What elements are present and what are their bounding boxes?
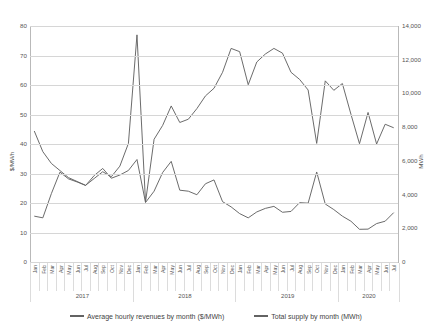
month-label: Mar	[356, 239, 362, 265]
year-group-label: 2019	[235, 290, 339, 302]
month-label: Jun	[74, 239, 80, 265]
y-axis-left-ticks: 01020304050607080	[0, 0, 27, 328]
legend-item[interactable]: Total supply by month (MWh)	[254, 313, 362, 320]
month-label: Sep	[202, 239, 208, 265]
month-label: Mar	[254, 239, 260, 265]
gridline	[30, 203, 398, 204]
y-axis-left-tick: 50	[1, 111, 27, 118]
legend-label: Average hourly revenues by month ($/MWh)	[87, 313, 224, 320]
gridline	[30, 174, 398, 175]
revenue-supply-line-chart: $/MWh MWh 01020304050607080 02,0004,0006…	[0, 0, 432, 328]
month-label: Dec	[331, 239, 337, 265]
month-label: Dec	[125, 239, 131, 265]
month-label: Jun	[382, 239, 388, 265]
month-label: Feb	[40, 239, 46, 265]
month-label: Jun	[176, 239, 182, 265]
month-label: Feb	[245, 239, 251, 265]
month-label: Sep	[305, 239, 311, 265]
y-axis-left-tick: 40	[1, 140, 27, 147]
month-label: Mar	[151, 239, 157, 265]
y-axis-right-tick: 4,000	[402, 191, 432, 198]
y-axis-right-tick: 6,000	[402, 157, 432, 164]
month-label: May	[168, 239, 174, 265]
month-label: Jul	[390, 239, 396, 265]
month-label: Oct	[211, 239, 217, 265]
month-label: Aug	[91, 239, 97, 265]
month-label: Nov	[117, 239, 123, 265]
plot-area	[30, 26, 398, 262]
year-group-label: 2017	[30, 290, 134, 302]
y-axis-left-tick: 30	[1, 170, 27, 177]
month-label: Oct	[108, 239, 114, 265]
legend-item[interactable]: Average hourly revenues by month ($/MWh)	[70, 313, 224, 320]
gridline	[30, 144, 398, 145]
month-label: Apr	[159, 239, 165, 265]
y-axis-left-tick: 20	[1, 199, 27, 206]
x-axis-month-tick: Jul	[389, 263, 400, 291]
month-label: Aug	[296, 239, 302, 265]
x-axis-year-groups: 2017201820192020	[30, 290, 398, 304]
month-label: Dec	[228, 239, 234, 265]
y-axis-left-tick: 0	[1, 258, 27, 265]
legend-line-swatch	[254, 315, 268, 316]
month-label: Aug	[194, 239, 200, 265]
x-axis-month-labels: JanFebMarAprMayJunJulAugSepOctNovDecJanF…	[30, 263, 398, 293]
gridline	[30, 56, 398, 57]
y-axis-left-tick: 70	[1, 52, 27, 59]
gridline	[30, 26, 398, 27]
y-axis-left-tick: 60	[1, 81, 27, 88]
y-axis-right-tick: 12,000	[402, 56, 432, 63]
month-label: May	[373, 239, 379, 265]
month-label: May	[65, 239, 71, 265]
gridline	[30, 115, 398, 116]
gridlines	[30, 26, 398, 262]
month-label: Feb	[142, 239, 148, 265]
y-axis-left-tick: 80	[1, 22, 27, 29]
month-label: Jul	[288, 239, 294, 265]
y-axis-right-tick: 14,000	[402, 22, 432, 29]
month-label: Jul	[185, 239, 191, 265]
y-axis-right-tick: 10,000	[402, 89, 432, 96]
chart-legend: Average hourly revenues by month ($/MWh)…	[0, 308, 432, 324]
legend-line-swatch	[70, 315, 84, 316]
month-label: Feb	[348, 239, 354, 265]
month-label: Jan	[31, 239, 37, 265]
month-label: Apr	[365, 239, 371, 265]
year-group-label: 2020	[338, 290, 400, 302]
month-label: May	[271, 239, 277, 265]
month-label: Jan	[134, 239, 140, 265]
month-label: Apr	[57, 239, 63, 265]
month-label: Jan	[236, 239, 242, 265]
month-label: Nov	[322, 239, 328, 265]
y-axis-right-ticks: 02,0004,0006,0008,00010,00012,00014,000	[402, 0, 432, 328]
month-label: Jan	[339, 239, 345, 265]
y-axis-right-tick: 2,000	[402, 224, 432, 231]
y-axis-right-tick: 8,000	[402, 123, 432, 130]
y-axis-right-line	[398, 26, 399, 263]
y-axis-right-tick: 0	[402, 258, 432, 265]
month-label: Sep	[99, 239, 105, 265]
month-label: Mar	[48, 239, 54, 265]
month-label: Apr	[262, 239, 268, 265]
legend-label: Total supply by month (MWh)	[271, 313, 362, 320]
month-label: Jul	[82, 239, 88, 265]
month-label: Jun	[279, 239, 285, 265]
month-label: Nov	[219, 239, 225, 265]
gridline	[30, 85, 398, 86]
y-axis-left-tick: 10	[1, 229, 27, 236]
year-group-label: 2018	[133, 290, 237, 302]
gridline	[30, 233, 398, 234]
month-label: Oct	[313, 239, 319, 265]
